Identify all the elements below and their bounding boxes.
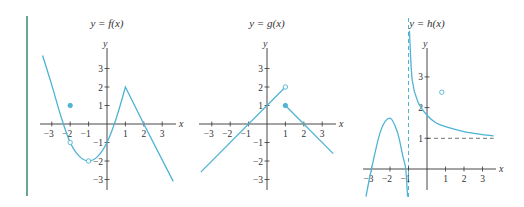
y-tick-label: 2 <box>258 83 263 93</box>
x-tick-label: 1 <box>283 129 288 139</box>
x-tick-label: 3 <box>480 174 485 184</box>
curve-right <box>285 106 333 154</box>
curve-left-branch <box>366 118 408 197</box>
markers <box>283 85 287 108</box>
axes: xy−3−2−1123123 <box>363 38 504 190</box>
y-tick-label: 3 <box>418 72 423 82</box>
curves <box>366 31 494 197</box>
x-tick-label: −2 <box>382 174 392 184</box>
curve-curve <box>43 56 174 182</box>
y-tick-label: −1 <box>253 138 263 148</box>
y-tick-label: 3 <box>98 64 103 74</box>
x-tick-label: −1 <box>81 129 91 139</box>
x-tick-label: 2 <box>462 174 467 184</box>
open-point <box>440 90 444 94</box>
open-point <box>283 85 287 89</box>
axes: xy−3−2−1123−3−2−1123 <box>199 38 344 190</box>
x-tick-label: 2 <box>301 129 306 139</box>
chart-title-f: y = f(x) <box>89 17 123 30</box>
y-tick-label: 2 <box>98 83 103 93</box>
y-tick-label: 3 <box>258 64 263 74</box>
x-tick-label: −1 <box>400 174 410 184</box>
x-tick-label: 1 <box>123 129 128 139</box>
y-tick-label: 1 <box>418 134 423 144</box>
chart-title-h: y = h(x) <box>408 17 445 30</box>
x-tick-label: −3 <box>44 129 54 139</box>
chart-g: y = g(x) xy−3−2−1123−3−2−1123 <box>199 17 344 190</box>
open-point <box>68 140 72 144</box>
x-axis-label: x <box>498 163 504 174</box>
x-tick-label: 1 <box>443 174 448 184</box>
chart-h: y = h(x) xy−3−2−1123123 <box>363 17 504 198</box>
y-tick-label: −3 <box>93 175 103 185</box>
x-tick-label: 3 <box>160 129 165 139</box>
y-tick-label: −2 <box>93 157 103 167</box>
chart-f: y = f(x) xy−3−2−1123−3−2−1123 <box>40 17 184 190</box>
y-tick-label: −1 <box>93 138 103 148</box>
chart-title-g: y = g(x) <box>248 17 285 30</box>
y-tick-label: 1 <box>98 101 103 111</box>
y-axis-label: y <box>102 38 108 49</box>
x-axis-label: x <box>178 118 184 129</box>
x-tick-label: −2 <box>222 129 232 139</box>
filled-point <box>283 103 287 107</box>
y-tick-label: −2 <box>253 157 263 167</box>
open-point <box>86 159 90 163</box>
y-axis-label: y <box>262 38 268 49</box>
x-tick-label: 3 <box>320 129 325 139</box>
axes: xy−3−2−1123−3−2−1123 <box>40 38 184 190</box>
y-axis-label: y <box>422 38 428 49</box>
y-tick-label: −3 <box>253 175 263 185</box>
figure: y = f(x) xy−3−2−1123−3−2−1123 y = g(x) x… <box>0 0 524 207</box>
markers <box>440 90 444 94</box>
x-tick-label: 2 <box>141 129 146 139</box>
x-axis-label: x <box>338 118 344 129</box>
curves <box>43 56 174 182</box>
filled-point <box>68 103 72 107</box>
figure-svg: y = f(x) xy−3−2−1123−3−2−1123 y = g(x) x… <box>0 0 524 207</box>
x-tick-label: −3 <box>204 129 214 139</box>
